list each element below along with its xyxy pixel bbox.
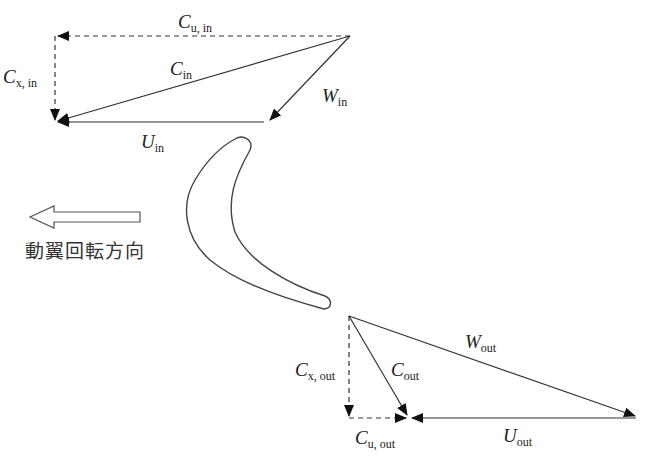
label-cx-in: Cx, in [3,67,37,89]
label-cu-out: Cu, out [355,428,395,450]
rotation-direction-label: 動翼回転方向 [25,236,145,263]
rotation-direction-arrow-icon [30,206,140,228]
label-u-out: Uout [503,426,532,448]
c-in-vector [58,36,350,121]
label-w-out: Wout [465,332,496,354]
label-c-in: Cin [170,59,192,81]
turbine-blade [187,137,331,309]
label-cx-out: Cx, out [295,360,335,382]
velocity-diagram-canvas [0,0,653,458]
inlet-triangle [55,36,350,122]
label-cu-in: Cu, in [178,12,212,34]
label-c-out: Cout [391,360,419,382]
label-w-in: Win [322,86,347,108]
label-u-in: Uin [141,132,164,154]
